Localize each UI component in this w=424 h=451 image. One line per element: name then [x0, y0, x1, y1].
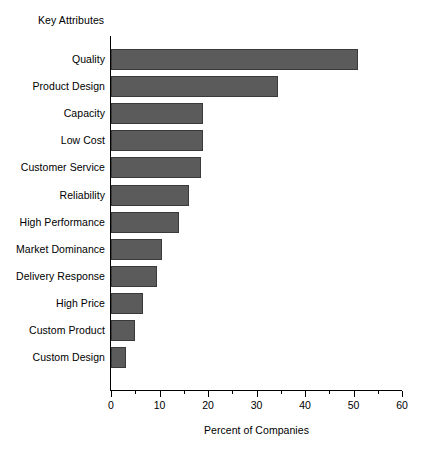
x-axis-title: Percent of Companies: [111, 424, 402, 436]
x-tick-label: 60: [396, 399, 408, 411]
x-tick-major: [354, 391, 355, 397]
x-tick-major: [402, 391, 403, 397]
x-tick-major: [305, 391, 306, 397]
category-label: Reliability: [1, 189, 105, 201]
x-tick-label: 30: [251, 399, 263, 411]
y-axis-title: Key Attributes: [38, 14, 104, 26]
category-label: Custom Product: [1, 324, 105, 336]
bar: [111, 130, 203, 151]
bar-chart: Key Attributes QualityProduct DesignCapa…: [0, 0, 424, 451]
x-tick-minor: [184, 391, 185, 394]
category-label: Market Dominance: [1, 243, 105, 255]
x-tick-major: [257, 391, 258, 397]
x-tick-label: 10: [154, 399, 166, 411]
x-tick-label: 20: [202, 399, 214, 411]
bar: [111, 103, 203, 124]
x-tick-label: 0: [108, 399, 114, 411]
category-label: Low Cost: [1, 134, 105, 146]
category-label: Customer Service: [1, 161, 105, 173]
x-tick-major: [111, 391, 112, 397]
x-tick-major: [208, 391, 209, 397]
bar: [111, 293, 143, 314]
bar: [111, 212, 179, 233]
bar: [111, 320, 135, 341]
x-tick-minor: [135, 391, 136, 394]
plot-area: [111, 36, 402, 390]
x-tick-minor: [378, 391, 379, 394]
x-tick-major: [160, 391, 161, 397]
x-tick-minor: [232, 391, 233, 394]
bar: [111, 185, 189, 206]
category-labels: QualityProduct DesignCapacityLow CostCus…: [0, 36, 105, 390]
bar: [111, 239, 162, 260]
bar: [111, 157, 201, 178]
category-label: High Price: [1, 297, 105, 309]
x-tick-minor: [329, 391, 330, 394]
bar: [111, 347, 126, 368]
x-tick-minor: [281, 391, 282, 394]
category-label: Product Design: [1, 80, 105, 92]
bar: [111, 266, 157, 287]
category-label: Capacity: [1, 107, 105, 119]
category-label: Delivery Response: [1, 270, 105, 282]
category-label: Custom Design: [1, 351, 105, 363]
bar: [111, 49, 358, 70]
category-label: Quality: [1, 53, 105, 65]
bar: [111, 76, 278, 97]
category-label: High Performance: [1, 216, 105, 228]
x-tick-label: 50: [348, 399, 360, 411]
x-tick-label: 40: [299, 399, 311, 411]
